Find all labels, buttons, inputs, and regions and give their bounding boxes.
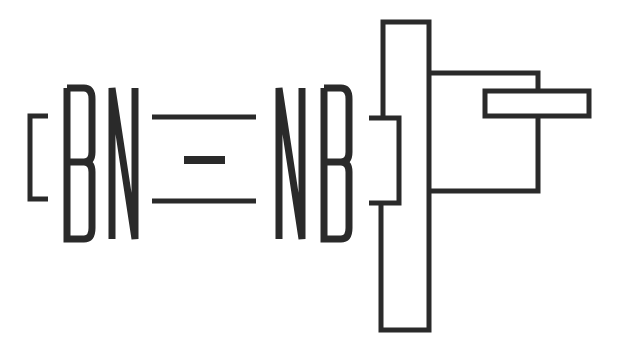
- letter-b-right: [324, 88, 349, 239]
- letter-b-left: [67, 88, 92, 239]
- bnnb-logo: [0, 0, 617, 349]
- letter-n-left: [112, 88, 135, 239]
- letter-n-right: [279, 88, 302, 239]
- left-bracket-icon: [30, 116, 48, 199]
- right-bracket-icon: [369, 118, 399, 203]
- small-bar: [485, 91, 589, 116]
- tall-rectangle: [381, 22, 429, 330]
- logo-canvas: [0, 0, 617, 349]
